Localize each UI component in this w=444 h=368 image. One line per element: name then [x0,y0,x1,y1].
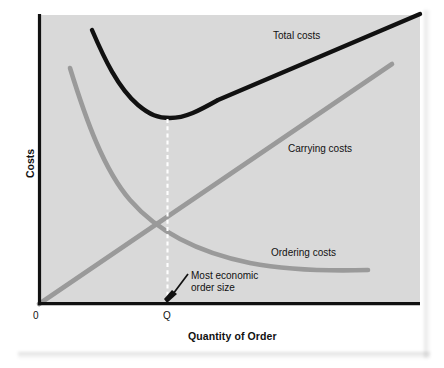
eoq-cost-chart: Total costs Carrying costs Ordering cost… [0,0,444,368]
series-label-carrying-costs: Carrying costs [288,143,352,155]
y-axis-title: Costs [24,149,36,178]
chart-svg [0,0,444,368]
annotation-line-2: order size [191,282,258,294]
page-canvas: Total costs Carrying costs Ordering cost… [0,0,444,368]
plot-texture-overlay [38,15,420,305]
annotation-line-1: Most economic [191,270,258,282]
x-axis-title: Quantity of Order [188,330,277,342]
x-tick-label-origin: 0 [33,310,39,322]
annotation-most-economic-order-size: Most economic order size [191,270,258,294]
series-label-ordering-costs: Ordering costs [271,247,336,259]
series-label-total-costs: Total costs [273,30,320,42]
x-tick-label-q: Q [163,310,171,322]
